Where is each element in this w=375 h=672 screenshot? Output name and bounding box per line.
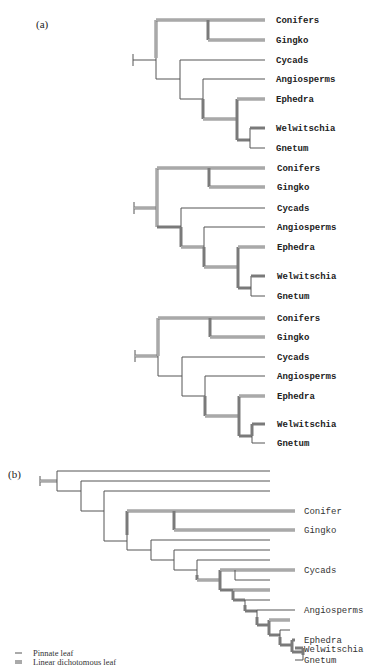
taxon-label: Welwitschia bbox=[277, 420, 337, 430]
taxon-label: Ephedra bbox=[277, 243, 315, 253]
taxon-label: Gnetum bbox=[277, 439, 310, 449]
taxon-label: Gnetum bbox=[304, 656, 336, 666]
taxon-label: Gingko bbox=[277, 183, 309, 193]
taxon-label: Conifer bbox=[304, 507, 342, 517]
taxon-label: Gingko bbox=[277, 333, 309, 343]
taxon-label: Gnetum bbox=[277, 292, 310, 302]
taxon-label: Conifers bbox=[277, 164, 320, 174]
tree-a2: Conifers Gingko Cycads Angiosperms Ephed… bbox=[134, 164, 337, 302]
legend-label: Linear dichotomous leaf bbox=[33, 657, 116, 667]
taxon-label: Welwitschia bbox=[304, 645, 364, 655]
taxon-label: Gingko bbox=[276, 36, 308, 46]
phylogeny-figure: (a) Conifers Gingko Cycads bbox=[0, 0, 375, 672]
taxon-label: Angiosperms bbox=[304, 606, 363, 616]
taxon-label: Conifers bbox=[277, 314, 320, 324]
taxon-label: Angiosperms bbox=[277, 223, 336, 233]
taxon-label: Cycads bbox=[304, 566, 336, 576]
tree-a3: Conifers Gingko Cycads Angiosperms Ephed… bbox=[135, 314, 337, 449]
taxon-label: Cycads bbox=[277, 204, 309, 214]
legend: Pinnate leaf Linear dichotomous leaf bbox=[15, 648, 116, 667]
taxon-label: Ephedra bbox=[277, 392, 315, 402]
tree-a1: Conifers Gingko Cycads Angiosperms Ephed… bbox=[133, 16, 336, 154]
taxon-label: Gnetum bbox=[276, 144, 309, 154]
panel-b-label: (b) bbox=[8, 468, 21, 481]
tree-b: Conifer Gingko Cycads Angiosperms Ephedr… bbox=[40, 471, 364, 666]
taxon-label: Welwitschia bbox=[277, 272, 337, 282]
panel-a-label: (a) bbox=[36, 18, 49, 31]
taxon-label: Gingko bbox=[304, 526, 336, 536]
taxon-label: Welwitschia bbox=[276, 124, 336, 134]
taxon-label: Angiosperms bbox=[277, 372, 336, 382]
taxon-label: Conifers bbox=[276, 16, 319, 26]
taxon-label: Ephedra bbox=[276, 95, 314, 105]
taxon-label: Cycads bbox=[277, 353, 309, 363]
taxon-label: Cycads bbox=[276, 56, 308, 66]
taxon-label: Angiosperms bbox=[276, 75, 335, 85]
